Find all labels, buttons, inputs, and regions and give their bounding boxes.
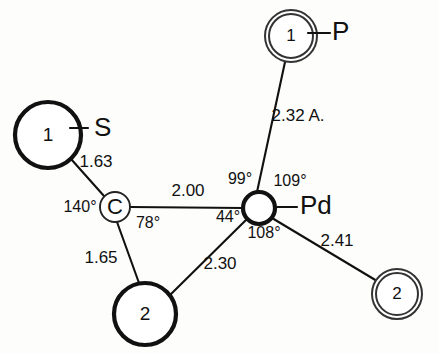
structure-canvas: 1SCPd1P22 1.632.001.652.302.32 A.2.41 14… [0, 0, 438, 354]
angle-pd-44: 44° [216, 208, 240, 225]
atom-layer: 1SCPd1P22 [15, 10, 422, 345]
bond-c-pd-length-label: 2.00 [171, 181, 204, 200]
bond-c-c2-length-label: 1.65 [84, 248, 117, 267]
molecular-structure-diagram: 1SCPd1P22 1.632.001.652.302.32 A.2.41 14… [0, 0, 438, 354]
angle-pd-108: 108° [247, 224, 280, 241]
angle-c-140: 140° [63, 198, 96, 215]
c-atom-inner-label: C [107, 194, 123, 219]
angle-c-78: 78° [136, 214, 160, 231]
pd-atom-element-label: Pd [300, 190, 332, 220]
p-atom-inner-label: 1 [286, 26, 295, 45]
p-atom-element-label: P [332, 16, 349, 46]
pd-atom-ring [243, 192, 275, 224]
c2-right-atom-inner-label: 2 [392, 284, 401, 303]
bond-c2-pd-length-label: 2.30 [203, 254, 236, 273]
bond-pd-c2r-length-label: 2.41 [320, 231, 353, 250]
s-atom-inner-label: 1 [43, 124, 54, 145]
bond-pd-p-length-label: 2.32 A. [272, 106, 325, 125]
bond-s-c-length-label: 1.63 [79, 152, 112, 171]
angle-pd-99: 99° [228, 170, 252, 187]
c2-bottom-atom-inner-label: 2 [140, 303, 151, 324]
s-atom-element-label: S [94, 112, 111, 142]
angle-pd-109: 109° [273, 172, 306, 189]
